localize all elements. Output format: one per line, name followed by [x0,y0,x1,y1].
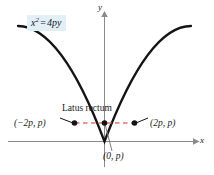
y-axis-label: y [98,3,102,12]
point-latus-left [72,120,78,126]
left-endpoint-leader-line [60,118,73,123]
parabola-figure: x2=4py Latus rectum (−2p, p) (2p, p) (0,… [0,0,214,175]
latus-rectum-label: Latus rectum [62,104,112,114]
point-focus-label: (0, p) [103,152,124,162]
point-left-label: (−2p, p) [14,119,46,129]
y-axis-arrowhead [101,11,108,17]
x-axis-label: x [200,136,204,145]
point-latus-right [132,120,138,126]
x-axis-arrowhead [193,138,200,145]
point-focus [102,120,108,126]
right-endpoint-leader-line [136,118,148,123]
equation-equals: = [39,17,47,28]
equation-rhs: 4py [47,17,62,28]
point-right-label: (2p, p) [150,119,175,129]
equation-label: x2=4py [27,15,66,31]
